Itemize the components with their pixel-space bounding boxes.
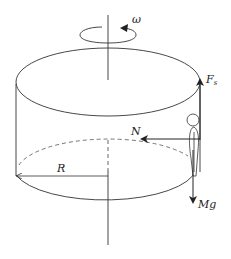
friction-force-subscript: s — [214, 79, 218, 87]
cylinder-bottom-front — [16, 170, 196, 200]
omega-arrowhead-icon — [120, 24, 128, 32]
weight-label: Mg — [198, 199, 216, 210]
rotor-diagram — [0, 0, 231, 259]
cylinder-bottom-back — [19, 139, 188, 165]
omega-label: ω — [132, 14, 141, 25]
friction-force-label: Fs — [206, 74, 217, 87]
radius-label: R — [57, 163, 65, 174]
normal-force-label: N — [131, 126, 141, 137]
friction-force-symbol: F — [206, 73, 214, 86]
